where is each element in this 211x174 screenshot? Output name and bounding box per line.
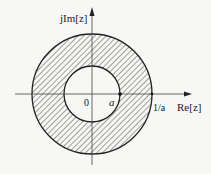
roc-annulus-hatch: [0, 0, 211, 174]
inner-radius-label: a: [109, 96, 115, 108]
real-axis-label: Re[z]: [177, 101, 201, 113]
point-a-marker: [118, 92, 122, 96]
point-inv-a-marker: [151, 93, 153, 95]
z-plane-diagram: jIm[z] Re[z] 0 a 1/a: [0, 0, 211, 174]
outer-radius-label: 1/a: [153, 102, 166, 113]
origin-label: 0: [84, 97, 89, 108]
imag-axis-label: jIm[z]: [59, 12, 87, 24]
